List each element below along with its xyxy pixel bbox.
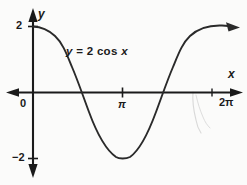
cosine-curve (33, 22, 240, 158)
curve-arrowhead (226, 22, 240, 31)
x-tick-label-pi: π (118, 99, 126, 110)
equation-annotation: y = 2 cos x (66, 46, 128, 58)
origin-label: 0 (20, 98, 26, 109)
graph-canvas (0, 0, 247, 185)
equation-variable-y: y (66, 45, 73, 57)
math-graph-figure: y x 2 −2 0 π 2π y = 2 cos x (0, 0, 247, 185)
y-tick-label-2: 2 (16, 20, 22, 31)
y-axis-label: y (38, 8, 45, 20)
y-tick-label-negative-2: −2 (12, 152, 25, 163)
x-tick-label-2pi: 2π (219, 97, 234, 108)
equation-variable-x: x (121, 45, 128, 57)
x-axis (6, 88, 243, 97)
scan-artifact-scribble (193, 92, 210, 133)
x-axis-label: x (228, 68, 235, 80)
equation-body: = 2 cos (73, 45, 121, 57)
